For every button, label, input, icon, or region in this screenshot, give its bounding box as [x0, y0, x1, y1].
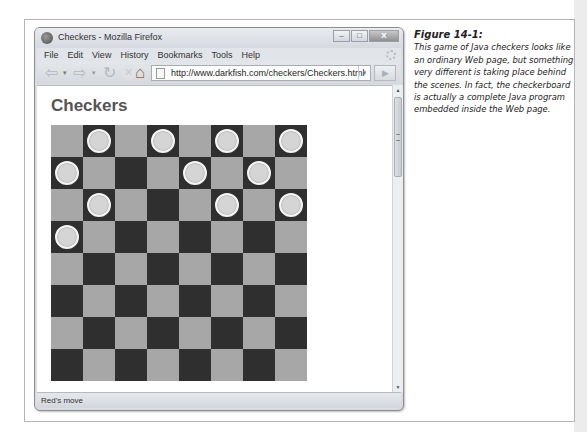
- board-square[interactable]: [211, 221, 243, 253]
- board-square[interactable]: [147, 157, 179, 189]
- forward-history-dropdown-icon[interactable]: ▾: [92, 65, 96, 81]
- checker-piece[interactable]: [247, 161, 271, 185]
- board-square[interactable]: [147, 349, 179, 381]
- back-history-dropdown-icon[interactable]: ▾: [63, 65, 67, 81]
- board-square[interactable]: [243, 125, 275, 157]
- board-square[interactable]: [275, 221, 307, 253]
- board-square[interactable]: [211, 349, 243, 381]
- board-square[interactable]: [115, 221, 147, 253]
- forward-arrow-icon[interactable]: ⇨: [73, 65, 86, 81]
- board-square[interactable]: [147, 317, 179, 349]
- board-square[interactable]: [51, 189, 83, 221]
- menu-file[interactable]: File: [44, 50, 59, 60]
- menu-bookmarks[interactable]: Bookmarks: [157, 50, 202, 60]
- board-square[interactable]: [51, 349, 83, 381]
- board-square[interactable]: [51, 125, 83, 157]
- checker-piece[interactable]: [151, 129, 175, 153]
- board-square[interactable]: [275, 349, 307, 381]
- board-square[interactable]: [179, 125, 211, 157]
- menu-view[interactable]: View: [92, 50, 111, 60]
- board-square[interactable]: [179, 221, 211, 253]
- board-square[interactable]: [83, 189, 115, 221]
- board-square[interactable]: [179, 317, 211, 349]
- board-square[interactable]: [179, 157, 211, 189]
- board-square[interactable]: [51, 221, 83, 253]
- checker-piece[interactable]: [279, 129, 303, 153]
- board-square[interactable]: [211, 189, 243, 221]
- back-arrow-icon[interactable]: ⇦: [45, 65, 58, 81]
- board-square[interactable]: [211, 253, 243, 285]
- board-square[interactable]: [243, 221, 275, 253]
- board-square[interactable]: [243, 253, 275, 285]
- minimize-button[interactable]: –: [333, 30, 350, 42]
- checker-piece[interactable]: [215, 129, 239, 153]
- board-square[interactable]: [115, 125, 147, 157]
- board-square[interactable]: [179, 349, 211, 381]
- board-square[interactable]: [83, 221, 115, 253]
- board-square[interactable]: [243, 157, 275, 189]
- board-square[interactable]: [275, 189, 307, 221]
- checker-piece[interactable]: [55, 161, 79, 185]
- reload-icon[interactable]: ↻: [103, 65, 116, 81]
- board-square[interactable]: [83, 317, 115, 349]
- board-square[interactable]: [243, 189, 275, 221]
- checker-piece[interactable]: [279, 193, 303, 217]
- url-input[interactable]: http://www.darkfish.com/checkers/Checker…: [171, 68, 365, 78]
- board-square[interactable]: [147, 221, 179, 253]
- maximize-button[interactable]: □: [351, 30, 368, 42]
- checkerboard-applet[interactable]: [51, 125, 307, 381]
- board-square[interactable]: [51, 253, 83, 285]
- board-square[interactable]: [243, 285, 275, 317]
- vertical-scrollbar[interactable]: ▲ ▼: [392, 85, 403, 392]
- board-square[interactable]: [115, 189, 147, 221]
- board-square[interactable]: [179, 253, 211, 285]
- checker-piece[interactable]: [87, 129, 111, 153]
- board-square[interactable]: [275, 157, 307, 189]
- checker-piece[interactable]: [215, 193, 239, 217]
- menu-edit[interactable]: Edit: [68, 50, 84, 60]
- board-square[interactable]: [211, 125, 243, 157]
- board-square[interactable]: [147, 189, 179, 221]
- board-square[interactable]: [147, 253, 179, 285]
- board-square[interactable]: [147, 285, 179, 317]
- board-square[interactable]: [115, 349, 147, 381]
- board-square[interactable]: [275, 253, 307, 285]
- url-dropdown-icon[interactable]: ▼: [358, 66, 370, 80]
- board-square[interactable]: [51, 317, 83, 349]
- checker-piece[interactable]: [87, 193, 111, 217]
- board-square[interactable]: [83, 285, 115, 317]
- title-bar[interactable]: Checkers - Mozilla Firefox – □ X: [35, 28, 403, 48]
- board-square[interactable]: [115, 253, 147, 285]
- go-button[interactable]: ▶: [374, 65, 396, 81]
- board-square[interactable]: [83, 125, 115, 157]
- board-square[interactable]: [275, 125, 307, 157]
- scroll-up-icon[interactable]: ▲: [393, 85, 403, 95]
- scroll-down-icon[interactable]: ▼: [393, 382, 403, 392]
- board-square[interactable]: [115, 157, 147, 189]
- board-square[interactable]: [275, 285, 307, 317]
- board-square[interactable]: [51, 157, 83, 189]
- board-square[interactable]: [83, 349, 115, 381]
- menu-tools[interactable]: Tools: [211, 50, 232, 60]
- url-bar[interactable]: http://www.darkfish.com/checkers/Checker…: [151, 65, 371, 81]
- board-square[interactable]: [147, 125, 179, 157]
- board-square[interactable]: [51, 285, 83, 317]
- menu-history[interactable]: History: [120, 50, 148, 60]
- checker-piece[interactable]: [183, 161, 207, 185]
- board-square[interactable]: [211, 157, 243, 189]
- board-square[interactable]: [211, 317, 243, 349]
- board-square[interactable]: [243, 317, 275, 349]
- menu-help[interactable]: Help: [241, 50, 260, 60]
- close-button[interactable]: X: [369, 30, 399, 42]
- board-square[interactable]: [115, 285, 147, 317]
- board-square[interactable]: [83, 253, 115, 285]
- board-square[interactable]: [275, 317, 307, 349]
- board-square[interactable]: [179, 189, 211, 221]
- board-square[interactable]: [211, 285, 243, 317]
- stop-icon[interactable]: ✕: [121, 65, 136, 80]
- board-square[interactable]: [115, 317, 147, 349]
- scrollbar-thumb[interactable]: [394, 97, 402, 177]
- checker-piece[interactable]: [55, 225, 79, 249]
- board-square[interactable]: [83, 157, 115, 189]
- board-square[interactable]: [179, 285, 211, 317]
